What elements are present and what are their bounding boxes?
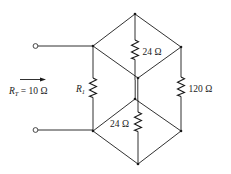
rt-arrow xyxy=(20,78,46,82)
resistor-right-120 xyxy=(178,47,185,131)
center-double-link xyxy=(135,78,138,100)
top-24-label: 24 Ω xyxy=(143,47,162,57)
terminal-top xyxy=(33,44,38,49)
junction-nodes xyxy=(92,13,183,166)
resistor-r1 xyxy=(90,46,97,131)
bottom-24-label: 24 Ω xyxy=(110,119,129,129)
resistor-top-24 xyxy=(132,14,139,80)
rt-label: RT = 10 Ω xyxy=(8,86,47,97)
right-120-label: 120 Ω xyxy=(189,84,213,94)
circuit-diagram: RT = 10 Ω R1 24 Ω 24 Ω xyxy=(0,0,231,174)
terminal-bottom xyxy=(33,128,38,133)
upper-diamond-wires xyxy=(93,14,181,78)
resistor-bottom-24 xyxy=(135,100,142,164)
r1-label: R1 xyxy=(75,84,85,95)
